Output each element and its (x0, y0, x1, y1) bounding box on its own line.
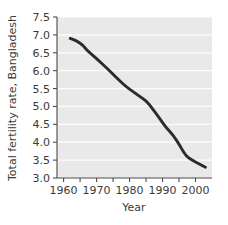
y-tick-label: 7.5 (33, 11, 51, 24)
plot-area-background (57, 17, 212, 178)
x-tick-label: 1990 (149, 184, 177, 197)
x-tick-label: 2000 (182, 184, 210, 197)
y-tick-label: 5.0 (33, 100, 51, 113)
x-axis-ticks (64, 178, 196, 182)
x-tick-label: 1980 (116, 184, 144, 197)
y-tick-label: 5.5 (33, 83, 51, 96)
y-tick-label: 7.0 (33, 29, 51, 42)
x-tick-label: 1960 (50, 184, 78, 197)
y-axis-ticks (53, 17, 57, 178)
x-tick-label: 1970 (83, 184, 111, 197)
y-tick-label: 4.0 (33, 136, 51, 149)
y-tick-label: 3.5 (33, 154, 51, 167)
chart-figure: 3.03.54.04.55.05.56.06.57.07.5 196019701… (0, 0, 228, 225)
y-axis-title: Total fertility rate, Bangladesh (6, 15, 19, 182)
y-tick-label: 3.0 (33, 172, 51, 185)
y-tick-label: 4.5 (33, 118, 51, 131)
x-axis-tick-labels: 19601970198019902000 (50, 184, 210, 197)
x-axis-title: Year (121, 201, 146, 214)
y-axis-tick-labels: 3.03.54.04.55.05.56.06.57.07.5 (33, 11, 51, 185)
y-tick-label: 6.5 (33, 47, 51, 60)
y-tick-label: 6.0 (33, 65, 51, 78)
line-chart: 3.03.54.04.55.05.56.06.57.07.5 196019701… (0, 0, 228, 225)
